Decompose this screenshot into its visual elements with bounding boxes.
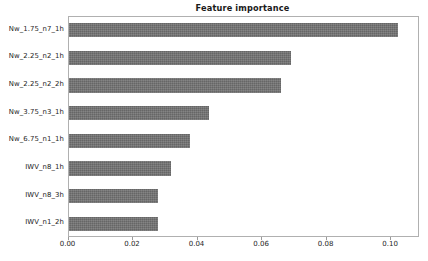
plot-area	[68, 16, 419, 237]
x-tick-label-0.06: 0.06	[253, 240, 269, 248]
x-tick-label-0.10: 0.10	[382, 240, 398, 248]
y-tick-label-Nw_2.25_n2_1h: Nw_2.25_n2_1h	[0, 52, 64, 60]
x-tick-label-0.08: 0.08	[318, 240, 334, 248]
bar-Nw_2.25_n2_2h	[69, 78, 282, 92]
bar-Nw_1.75_n7_1h	[69, 23, 398, 37]
bar-Nw_6.75_n1_1h	[69, 134, 190, 148]
y-tick-label-Nw_6.75_n1_1h: Nw_6.75_n1_1h	[0, 135, 64, 143]
feature-importance-chart: Feature importance Nw_1.75_n7_1hNw_2.25_…	[0, 0, 428, 261]
bar-Nw_3.75_n3_1h	[69, 106, 209, 120]
y-tick-label-Nw_1.75_n7_1h: Nw_1.75_n7_1h	[0, 25, 64, 33]
bar-IWV_n1_2h	[69, 217, 158, 231]
bar-Nw_2.25_n2_1h	[69, 51, 292, 65]
chart-title: Feature importance	[67, 3, 418, 13]
y-tick-label-Nw_2.25_n2_2h: Nw_2.25_n2_2h	[0, 80, 64, 88]
x-tick-label-0.00: 0.00	[60, 240, 76, 248]
bar-IWV_n8_1h	[69, 161, 172, 175]
y-tick-label-IWV_n1_2h: IWV_n1_2h	[0, 218, 64, 226]
bar-IWV_n8_3h	[69, 189, 159, 203]
y-tick-label-Nw_3.75_n3_1h: Nw_3.75_n3_1h	[0, 108, 64, 116]
y-tick-label-IWV_n8_3h: IWV_n8_3h	[0, 191, 64, 199]
x-tick-label-0.04: 0.04	[189, 240, 205, 248]
x-tick-label-0.02: 0.02	[124, 240, 140, 248]
y-tick-label-IWV_n8_1h: IWV_n8_1h	[0, 163, 64, 171]
